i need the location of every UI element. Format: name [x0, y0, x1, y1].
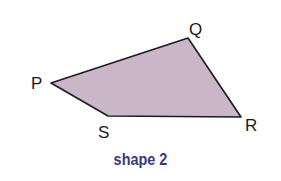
- figure-caption: shape 2: [21, 150, 260, 170]
- vertex-label-q: Q: [189, 20, 202, 39]
- diagram-canvas: P Q R S shape 2: [0, 0, 281, 181]
- quadrilateral-pqrs: [51, 38, 241, 117]
- vertex-label-p: P: [31, 74, 42, 93]
- vertex-label-s: S: [98, 123, 109, 142]
- vertex-label-r: R: [245, 116, 257, 135]
